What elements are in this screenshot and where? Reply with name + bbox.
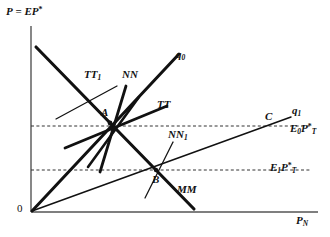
curve-label-q0-sub: 0 <box>182 53 186 62</box>
price-level-label-e1: E1P*T <box>270 162 296 174</box>
e1-p: P <box>281 161 288 173</box>
y-axis-label-equals: = <box>13 5 25 17</box>
y-axis-label-star: * <box>39 5 43 14</box>
curve-label-q0: q0 <box>176 49 185 61</box>
diagram-canvas: P = EP* PN 0 TT1 NN q0 TT A NN1 C q1 E0P… <box>0 0 330 237</box>
y-axis-label-ep: EP <box>25 5 39 17</box>
curve-label-nn-text: NN <box>122 68 138 80</box>
curve-label-tt1: TT1 <box>84 69 101 81</box>
curve-label-tt: TT <box>157 99 170 110</box>
curve-label-tt1-text: TT <box>84 68 97 80</box>
point-label-b: B <box>152 174 159 185</box>
curve-label-nn1-text: NN <box>168 128 184 140</box>
e1-psub: T <box>292 166 297 175</box>
x-axis-label-sub: N <box>303 219 308 228</box>
price-level-label-e0: E0P*T <box>290 123 316 135</box>
point-label-a-text: A <box>101 106 108 118</box>
point-b-marker <box>154 168 158 172</box>
x-axis-label: PN <box>296 215 308 227</box>
e0-p: P <box>301 122 308 134</box>
curve-label-nn: NN <box>122 69 138 80</box>
y-axis-label: P = EP* <box>6 6 43 17</box>
point-label-c: C <box>265 111 272 122</box>
x-axis-label-p: P <box>296 214 303 226</box>
curve-label-q1: q1 <box>292 105 301 117</box>
point-label-a: A <box>101 107 108 118</box>
origin-zero: 0 <box>17 202 23 214</box>
curve-label-nn1: NN1 <box>168 129 188 141</box>
curve-label-nn1-sub: 1 <box>184 133 188 142</box>
curve-label-tt1-sub: 1 <box>97 73 101 82</box>
point-label-c-text: C <box>265 110 272 122</box>
e0-psub: T <box>312 127 317 136</box>
point-label-b-text: B <box>152 173 159 185</box>
point-a-marker <box>108 121 113 126</box>
curve-label-mm-text: MM <box>177 183 197 195</box>
curve-label-tt-text: TT <box>157 98 170 110</box>
curve-label-q1-sub: 1 <box>298 109 302 118</box>
y-axis-label-p: P <box>6 5 13 17</box>
diagram-svg <box>0 0 330 237</box>
curve-label-mm: MM <box>177 184 197 195</box>
origin-label: 0 <box>17 203 23 214</box>
